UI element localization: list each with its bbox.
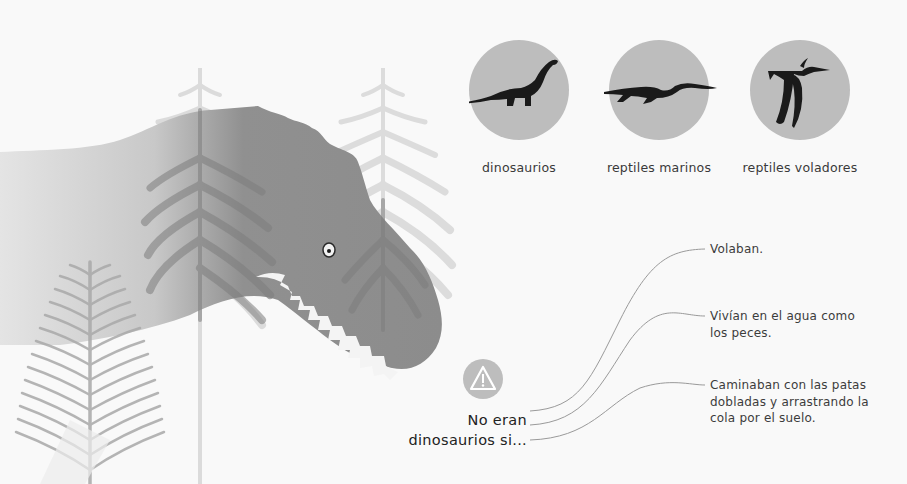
answer-2: Vivían en el agua como los peces. [710, 308, 860, 341]
page: dinosaurios reptiles marinos reptiles vo… [0, 0, 907, 484]
connector-line-1 [530, 249, 705, 411]
answer-1: Volaban. [710, 241, 890, 258]
answer-3: Caminaban con las patas dobladas y arras… [710, 377, 870, 427]
connector-line-3 [530, 383, 705, 440]
connector-line-2 [530, 313, 705, 425]
